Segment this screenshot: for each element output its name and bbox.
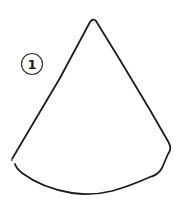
left-end-dot	[11, 159, 14, 162]
cone-left-edge	[12, 20, 170, 194]
label-number: 1	[27, 57, 36, 72]
diagram-canvas: 1	[0, 0, 188, 204]
cone-diagram: 1	[0, 0, 188, 204]
figure-label: 1	[22, 54, 43, 75]
